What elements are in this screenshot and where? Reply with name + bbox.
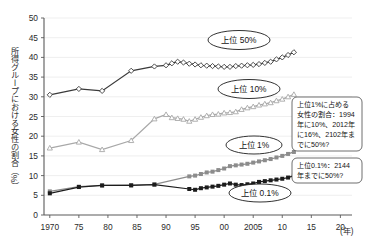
x-tick-label: 80 [103,222,113,232]
x-tick-label: 95 [190,222,200,232]
series-label-top10-text: 上位 10% [231,84,267,94]
x-tick-label: 00 [219,222,229,232]
data-point-marker [269,178,273,182]
data-point-marker [181,60,186,65]
callout-top01: 上位0.1%：2144 年までに50%? [292,158,362,183]
data-point-marker [210,63,215,68]
x-tick-label: 90 [161,222,171,232]
line-chart: 05101520253035404550 1970758085909500200… [0,0,366,242]
data-point-marker [175,59,180,64]
x-tick-label: 1970 [40,222,59,232]
data-point-marker [205,185,209,189]
data-point-marker [286,152,290,156]
data-point-marker [216,184,220,188]
data-point-marker [192,62,197,67]
data-point-marker [199,172,203,176]
series-label-top1-text: 上位 1% [239,140,270,150]
y-tick-label: 0 [33,210,38,220]
callout-top01-line-1: 上位0.1%：2144 [297,161,350,170]
callout-top1: 上位1%に占める 女性の割合：1994 年に10%、2012年 に16%、210… [292,97,362,151]
callout-top1-line-1: 上位1%に占める [297,100,349,109]
series-label-top01: 上位 0.1% [229,184,291,202]
y-tick-label: 45 [29,33,39,43]
data-point-marker [211,170,215,174]
data-point-marker [216,168,220,172]
data-point-marker [257,159,261,163]
data-point-marker [216,64,221,69]
y-tick-label: 25 [29,112,39,122]
callout-top1-line-3: 年に10%、2012年 [297,120,355,129]
data-point-marker [280,154,284,158]
data-point-marker [245,162,249,166]
data-point-marker [227,64,232,69]
data-point-marker [222,64,227,69]
data-point-marker [187,174,191,178]
callout-top1-line-2: 女性の割合：1994 [297,110,355,119]
data-point-marker [152,64,157,69]
data-point-marker [198,63,203,68]
x-axis-tick-labels: 19707580859095002005101520 [40,222,345,232]
data-point-marker [280,177,284,181]
y-tick-label: 20 [29,131,39,141]
x-tick-label: 75 [74,222,84,232]
callout-top1-line-4: に16%、2102年ま [297,130,355,139]
y-tick-label: 50 [29,13,39,23]
data-point-marker [222,167,226,171]
y-tick-label: 5 [33,190,38,200]
data-point-marker [268,59,273,64]
data-point-marker [222,183,226,187]
x-tick-label: 10 [278,222,288,232]
data-point-marker [169,61,174,66]
data-point-marker [163,112,168,117]
data-point-marker [199,186,203,190]
data-point-marker [274,155,278,159]
data-point-marker [286,176,290,180]
data-point-marker [251,62,256,67]
x-tick-label: 15 [307,222,317,232]
y-tick-label: 15 [29,151,39,161]
data-point-marker [233,63,238,68]
series-label-top1: 上位 1% [226,136,282,154]
y-tick-label: 35 [29,72,39,82]
data-point-marker [291,50,296,55]
data-point-marker [269,157,273,161]
data-point-marker [251,161,255,165]
data-point-marker [48,191,52,195]
callout-top01-line-2: 年までに50%? [297,171,343,180]
series-layer [47,50,296,196]
data-point-marker [129,183,133,187]
data-point-marker [100,183,104,187]
data-point-marker [245,63,250,68]
data-point-marker [240,163,244,167]
x-tick-label: 85 [132,222,142,232]
data-point-marker [187,61,192,66]
data-point-marker [280,55,285,60]
data-point-marker [193,174,197,178]
data-point-marker [262,60,267,65]
callout-top1-line-5: でに50%? [297,141,329,149]
data-point-marker [204,63,209,68]
data-point-marker [228,164,232,168]
data-point-marker [76,86,81,91]
data-point-marker [234,183,238,187]
series-label-top50-text: 上位 50% [221,35,257,45]
series-label-top01-text: 上位 0.1% [241,188,279,198]
data-point-marker [205,170,209,174]
y-tick-label: 30 [29,92,39,102]
data-point-marker [285,52,290,57]
y-tick-label: 40 [29,52,39,62]
data-point-marker [211,185,215,189]
data-point-marker [193,188,197,192]
data-point-marker [76,140,81,145]
data-point-marker [163,63,168,68]
y-tick-label: 10 [29,171,39,181]
data-point-marker [228,181,232,185]
series-label-top10: 上位 10% [218,80,280,99]
series-label-top50: 上位 50% [208,31,270,50]
data-point-marker [274,178,278,182]
data-point-marker [263,158,267,162]
chart-container: 所得グループにおける女性の割合（%） 05101520253035404550 … [0,0,366,242]
data-point-marker [152,183,156,187]
y-axis-tick-labels: 05101520253035404550 [29,13,39,220]
x-tick-label: 2005 [244,222,263,232]
